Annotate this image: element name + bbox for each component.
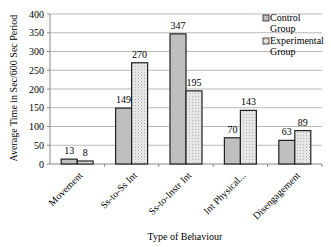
y-tick-label: 150	[29, 102, 44, 113]
bar-experimental	[295, 131, 311, 164]
legend: Control Group Experimental Group	[263, 12, 324, 57]
bar-control	[116, 108, 132, 164]
bar-control	[224, 138, 240, 164]
bar-value-label: 89	[298, 117, 308, 128]
x-tick-label: Ss-to-Instr Int	[146, 169, 193, 216]
bar-value-label: 63	[282, 126, 292, 137]
bar-chart: 050100150200250300350400 138149270347195…	[0, 0, 331, 247]
bar-value-label: 195	[187, 77, 202, 88]
bar-control	[61, 159, 77, 164]
x-tick-label: Movement	[46, 169, 85, 208]
legend-swatch-control	[263, 15, 269, 21]
bar-experimental	[240, 110, 256, 164]
bar-value-label: 8	[83, 147, 88, 158]
legend-swatch-experimental	[263, 38, 269, 44]
bar-control	[279, 140, 295, 164]
bar-experimental	[77, 161, 93, 164]
y-axis-label: Average Time in Sec/600 Sec Period	[8, 15, 19, 162]
x-axis-ticks: MovementSs-to-Ss IntSs-to-Instr IntInt P…	[46, 164, 322, 221]
y-tick-label: 250	[29, 65, 44, 76]
y-tick-label: 350	[29, 27, 44, 38]
bar-value-label: 70	[227, 124, 237, 135]
y-tick-label: 50	[34, 140, 44, 151]
y-tick-label: 400	[29, 9, 44, 20]
legend-control-line2: Group	[270, 23, 296, 34]
y-tick-label: 0	[39, 159, 44, 170]
x-tick-label: Int Physical...	[201, 170, 248, 217]
y-axis-ticks: 050100150200250300350400	[29, 9, 50, 170]
legend-control-line1: Control	[270, 12, 301, 23]
x-tick-label: Disengagement	[250, 169, 302, 221]
legend-experimental-line1: Experimental	[270, 35, 324, 46]
y-tick-label: 300	[29, 46, 44, 57]
bar-value-label: 13	[64, 145, 74, 156]
legend-experimental-line2: Group	[270, 46, 296, 57]
bar-value-label: 270	[132, 49, 147, 60]
bar-value-label: 143	[241, 96, 256, 107]
bar-value-label: 347	[171, 20, 186, 31]
y-tick-label: 200	[29, 84, 44, 95]
bar-experimental	[186, 91, 202, 164]
bar-value-label: 149	[116, 94, 131, 105]
y-tick-label: 100	[29, 121, 44, 132]
bar-experimental	[132, 63, 148, 164]
x-axis-label: Type of Behaviour	[148, 231, 224, 242]
x-tick-label: Ss-to-Ss Int	[98, 169, 139, 210]
bar-control	[170, 34, 186, 164]
